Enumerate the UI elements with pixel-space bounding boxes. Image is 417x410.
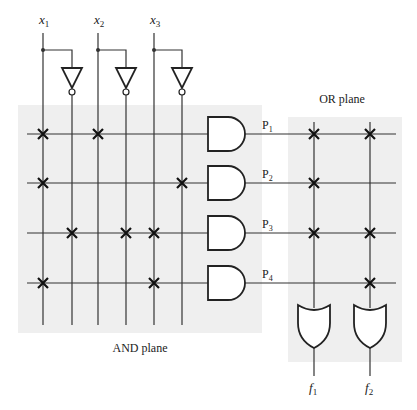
output-label-f2: f2 <box>365 380 373 397</box>
subscript: 3 <box>156 19 161 29</box>
inverter-bubble <box>179 89 185 95</box>
input-label-x2: x2 <box>93 12 104 29</box>
inverter-branch <box>98 50 126 68</box>
subscript: 3 <box>269 224 273 233</box>
inverter-icon <box>62 68 82 88</box>
subscript: 1 <box>45 19 50 29</box>
input-label-x3: x3 <box>149 12 161 29</box>
inverter-bubble <box>123 89 129 95</box>
product-label-p1: P1 <box>262 118 273 134</box>
product-label-p2: P2 <box>262 167 273 183</box>
inverter-icon <box>116 68 136 88</box>
and-gate-icon <box>208 266 245 300</box>
or-plane-label: OR plane <box>319 92 365 106</box>
pla-diagram: AND plane OR plane x1x2x3P1P2P3P4f1f2 <box>0 0 417 410</box>
subscript: 2 <box>100 19 105 29</box>
inverter-branch <box>43 50 72 68</box>
subscript: 2 <box>269 174 273 183</box>
product-label-p4: P4 <box>262 267 273 283</box>
and-gate-icon <box>208 117 245 151</box>
output-label-f1: f1 <box>309 380 317 397</box>
inverter-icon <box>172 68 192 88</box>
inverter-bubble <box>69 89 75 95</box>
subscript: 1 <box>313 387 318 397</box>
product-label-p3: P3 <box>262 217 273 233</box>
input-label-x1: x1 <box>38 12 49 29</box>
subscript: 2 <box>369 387 374 397</box>
subscript: 4 <box>269 274 273 283</box>
and-plane-label: AND plane <box>113 341 168 355</box>
inverter-branch <box>154 50 182 68</box>
subscript: 1 <box>269 125 273 134</box>
and-gate-icon <box>208 166 245 200</box>
and-gate-icon <box>208 216 245 250</box>
